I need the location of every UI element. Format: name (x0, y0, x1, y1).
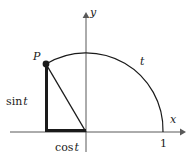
radius-segment (46, 64, 86, 132)
point-p-marker (43, 61, 50, 68)
arc-parameter-label: t (140, 56, 144, 67)
x-axis-arrowhead (180, 129, 186, 136)
point-p-label: P (33, 51, 40, 62)
figure-container: y x P t 1 sin t cos t (0, 0, 196, 163)
sin-leg-label: sin t (6, 96, 28, 107)
sin-variable: t (23, 95, 27, 108)
y-axis-label: y (90, 7, 96, 18)
x-axis (10, 129, 186, 136)
unit-tick-label: 1 (160, 138, 167, 149)
y-axis-arrowhead (83, 12, 90, 18)
cos-leg-label: cos t (55, 142, 79, 153)
x-axis-label: x (170, 114, 176, 125)
sin-prefix: sin (6, 95, 22, 108)
unit-circle-arc (46, 53, 163, 132)
cos-variable: t (75, 141, 79, 154)
cos-prefix: cos (55, 141, 73, 154)
